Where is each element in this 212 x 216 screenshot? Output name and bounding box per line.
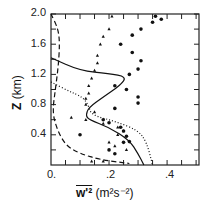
data-point-triangle <box>107 141 110 144</box>
data-point-circle <box>113 152 117 156</box>
data-point-circle <box>107 148 111 152</box>
y-tick-2.0: 2.0 <box>16 6 46 18</box>
y-tick-0.4: 0.4 <box>16 127 46 139</box>
data-point-triangle <box>116 125 119 128</box>
data-point-circle <box>119 125 123 129</box>
data-point-triangle <box>87 91 90 94</box>
data-point-triangle <box>96 61 99 64</box>
data-point-triangle <box>99 42 102 45</box>
data-point-circle <box>107 121 111 125</box>
data-point-circle <box>151 21 155 25</box>
data-point-triangle <box>90 76 93 79</box>
data-point-triangle <box>107 27 110 30</box>
data-point-circle <box>119 42 123 46</box>
y-tick-1.6: 1.6 <box>16 37 46 49</box>
x-axis-label-unit: (m²s⁻²) <box>96 186 134 200</box>
data-point-triangle <box>113 144 116 147</box>
data-point-circle <box>130 33 134 37</box>
data-point-circle <box>139 59 143 63</box>
data-point-circle <box>113 84 117 88</box>
data-point-triangle <box>93 69 96 72</box>
data-point-triangle <box>93 110 96 113</box>
data-point-circle <box>101 118 105 122</box>
data-point-triangle <box>96 54 99 57</box>
data-point-circle <box>136 67 140 71</box>
data-point-triangle <box>125 148 128 151</box>
data-point-triangle <box>84 97 87 100</box>
data-point-triangle <box>84 118 87 121</box>
y-axis-label: Z (km) <box>10 75 24 110</box>
data-point-circle <box>122 141 126 145</box>
data-point-circle <box>128 140 132 144</box>
data-point-circle <box>136 101 140 105</box>
data-point-circle <box>78 133 82 137</box>
data-point-circle <box>113 107 117 111</box>
data-point-circle <box>136 95 140 99</box>
data-point-triangle <box>70 116 73 119</box>
x-tick-0: 0. <box>47 168 56 180</box>
data-point-circle <box>128 73 132 77</box>
data-point-triangle <box>102 122 105 125</box>
x-tick-0.2: .2 <box>106 168 115 180</box>
data-point-circle <box>139 27 143 31</box>
x-tick-0.4: .4 <box>165 168 174 180</box>
data-point-circle <box>159 17 163 21</box>
data-point-circle <box>125 135 129 139</box>
curve-dashed <box>51 14 129 163</box>
x-axis-label-main: w'² <box>76 186 92 200</box>
y-axis-label-main: Z <box>10 103 24 110</box>
data-point-circle <box>130 51 134 55</box>
x-axis-label: w'² (m²s⁻²) <box>76 186 134 200</box>
data-point-circle <box>154 14 158 18</box>
y-axis-label-unit: (km) <box>10 75 24 99</box>
data-point-triangle <box>110 14 113 17</box>
data-point-circle <box>125 88 129 92</box>
data-point-triangle <box>90 159 93 162</box>
data-point-triangle <box>102 35 105 38</box>
data-point-triangle <box>87 84 90 87</box>
